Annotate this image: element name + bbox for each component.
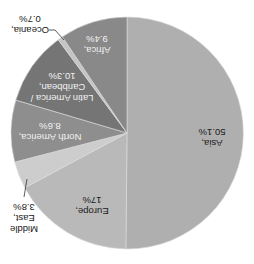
slice-label-africa: Africa,9.4%	[84, 34, 111, 56]
slice-label-asia: Asia,50.1%	[198, 127, 225, 149]
slice-label-oceania: Oceania,0.7%	[11, 14, 49, 36]
pie-chart: Asia,50.1%Europe,17%MiddleEast,3.8%North…	[0, 0, 254, 264]
slice-label-middle-east: MiddleEast,3.8%	[10, 202, 38, 235]
